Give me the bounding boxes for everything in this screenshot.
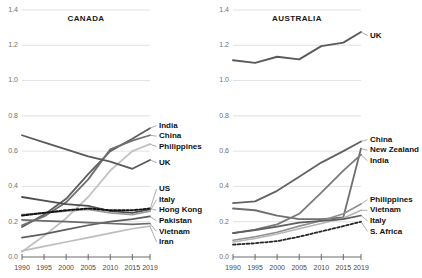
x-axis-tick-label: 2010 xyxy=(102,264,118,271)
x-axis-tick-label: 2015 xyxy=(336,264,352,271)
y-axis-tick-label: 0.6 xyxy=(8,147,18,154)
y-axis-tick-label: 0.0 xyxy=(8,253,18,260)
series-labels-australia: UKChinaNew ZealandIndiaPhilippinesVietna… xyxy=(361,31,419,236)
series-label-uk: UK xyxy=(370,31,382,40)
x-axis-tick-label: 1990 xyxy=(14,264,30,271)
y-axis-tick-label: 1.0 xyxy=(8,76,18,83)
x-axis-tick-label: 2010 xyxy=(313,264,329,271)
x-axis-tick-label: 1995 xyxy=(247,264,263,271)
series-label-pakistan: Pakistan xyxy=(159,216,192,225)
y-axis-tick-label: 0.8 xyxy=(8,112,18,119)
series-line-pakistan[interactable] xyxy=(22,216,150,237)
series-line-vietnam[interactable] xyxy=(22,220,150,224)
series-label-hong-kong: Hong Kong xyxy=(159,205,202,214)
x-axis-tick-label: 2005 xyxy=(80,264,96,271)
series-line-china[interactable] xyxy=(22,135,150,225)
y-axis-tick-label: 0.2 xyxy=(219,218,229,225)
series-label-uk: UK xyxy=(159,158,171,167)
x-axis-tick-label: 1990 xyxy=(225,264,241,271)
series-label-us: US xyxy=(159,184,171,193)
series-label-vietnam: Vietnam xyxy=(370,205,401,214)
series-label-india: India xyxy=(159,121,178,130)
label-leader-line xyxy=(150,160,157,163)
series-line-uk[interactable] xyxy=(233,32,361,63)
y-axis-tick-label: 0.4 xyxy=(219,182,229,189)
label-leader-line xyxy=(150,226,157,242)
series-line-s-africa[interactable] xyxy=(233,222,361,245)
series-label-china: China xyxy=(159,131,182,140)
chart-svg-canada: 0.00.20.40.60.81.01.21.41990199520002005… xyxy=(0,0,211,278)
series-label-new-zealand: New Zealand xyxy=(370,145,419,154)
x-axis-tick-label: 2005 xyxy=(291,264,307,271)
label-leader-line xyxy=(150,189,157,209)
label-leader-line xyxy=(361,222,368,232)
series-label-italy: Italy xyxy=(370,216,387,225)
series-label-vietnam: Vietnam xyxy=(159,227,190,236)
label-leader-line xyxy=(150,144,157,147)
x-axis-tick-label: 2000 xyxy=(269,264,285,271)
x-axis-tick-label: 2015 xyxy=(125,264,141,271)
series-group-australia xyxy=(233,32,361,245)
x-axis-tick-label: 2019 xyxy=(353,264,369,271)
chart-panel-australia: 0.00.20.40.60.81.01.21.41990199520002005… xyxy=(211,0,422,278)
label-leader-line xyxy=(150,126,157,129)
series-group-canada xyxy=(22,128,150,252)
x-axis-tick-label: 2019 xyxy=(142,264,158,271)
label-leader-line xyxy=(361,200,368,204)
x-axis-canada: 1990199520002005201020152019 xyxy=(14,254,158,271)
label-leader-line xyxy=(361,155,368,161)
y-axis-tick-label: 1.2 xyxy=(219,41,229,48)
y-axis-tick-label: 0.4 xyxy=(8,182,18,189)
label-leader-line xyxy=(150,216,157,220)
chart-panel-canada: 0.00.20.40.60.81.01.21.41990199520002005… xyxy=(0,0,211,278)
y-axis-tick-label: 0.6 xyxy=(219,147,229,154)
label-leader-line xyxy=(150,223,157,231)
chart-figure: 0.00.20.40.60.81.01.21.41990199520002005… xyxy=(0,0,422,278)
y-axis-tick-label: 1.4 xyxy=(8,6,18,13)
y-axis-tick-label: 1.0 xyxy=(219,76,229,83)
series-line-philippines[interactable] xyxy=(22,144,150,252)
series-label-philippines: Philippines xyxy=(370,195,413,204)
y-axis-tick-label: 0.8 xyxy=(219,112,229,119)
series-label-italy: Italy xyxy=(159,195,176,204)
chart-svg-australia: 0.00.20.40.60.81.01.21.41990199520002005… xyxy=(211,0,422,278)
x-axis-australia: 1990199520002005201020152019 xyxy=(225,254,369,271)
label-leader-line xyxy=(361,32,368,36)
series-label-iran: Iran xyxy=(159,237,174,246)
series-labels-canada: IndiaChinaPhilippinesUKUSItalyHong KongP… xyxy=(150,121,202,246)
label-leader-line xyxy=(361,149,368,151)
y-axis-tick-label: 1.4 xyxy=(219,6,229,13)
y-axis-tick-label: 0.2 xyxy=(8,218,18,225)
y-axis-tick-label: 0.0 xyxy=(219,253,229,260)
x-axis-tick-label: 1995 xyxy=(36,264,52,271)
series-label-china: China xyxy=(370,135,393,144)
panel-title: CANADA xyxy=(67,14,104,23)
x-axis-tick-label: 2000 xyxy=(58,264,74,271)
series-label-philippines: Philippines xyxy=(159,142,202,151)
series-label-india: India xyxy=(370,156,389,165)
series-label-s-africa: S. Africa xyxy=(370,227,403,236)
label-leader-line xyxy=(150,135,157,136)
panel-title: AUSTRALIA xyxy=(272,14,322,23)
y-axis-tick-label: 1.2 xyxy=(8,41,18,48)
label-leader-line xyxy=(361,140,368,142)
series-line-new-zealand[interactable] xyxy=(233,149,361,220)
label-leader-line xyxy=(361,216,368,221)
